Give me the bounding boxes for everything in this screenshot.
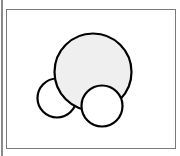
- bottom-right-circle: [82, 86, 123, 127]
- diagram-stage: [0, 0, 180, 156]
- overlapping-circles-diagram: [0, 0, 180, 156]
